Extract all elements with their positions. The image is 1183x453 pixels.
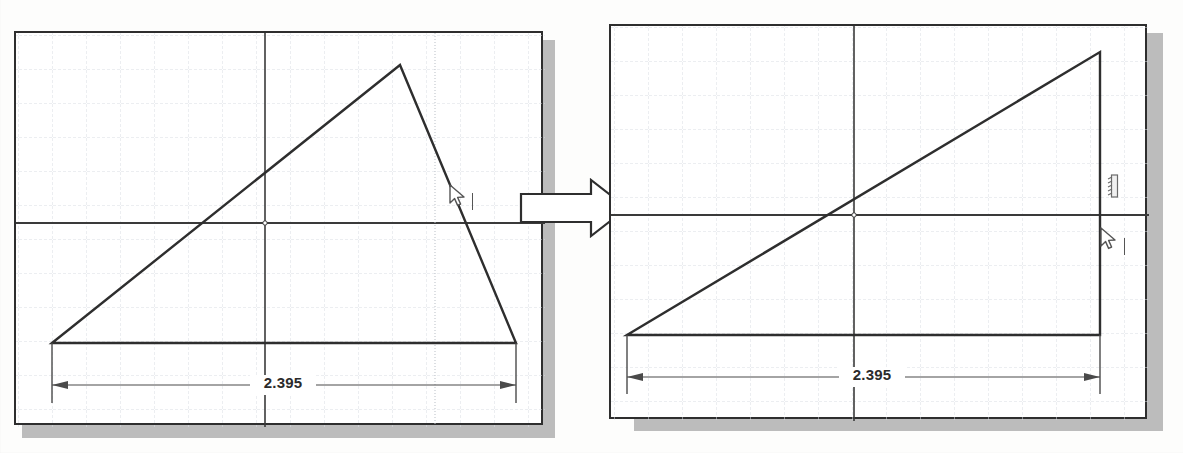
before-panel-canvas[interactable] xyxy=(16,33,545,427)
after-grid xyxy=(611,26,1149,421)
before-origin-marker xyxy=(263,221,267,225)
figure-stage: 2.395 xyxy=(0,0,1183,453)
after-cursor-icon xyxy=(1099,227,1121,253)
after-panel[interactable]: 2.395 xyxy=(609,24,1147,419)
before-cursor-icon xyxy=(448,184,470,210)
before-dimension-value[interactable]: 2.395 xyxy=(252,374,314,391)
vertical-constraint-icon[interactable] xyxy=(1105,174,1121,198)
before-grid xyxy=(16,33,545,427)
before-panel[interactable]: 2.395 xyxy=(14,31,543,425)
after-origin-marker xyxy=(852,213,856,217)
after-dimension-value[interactable]: 2.395 xyxy=(841,366,903,383)
after-text-caret xyxy=(1124,238,1125,255)
before-text-caret xyxy=(472,193,473,210)
after-panel-canvas[interactable] xyxy=(611,26,1149,421)
